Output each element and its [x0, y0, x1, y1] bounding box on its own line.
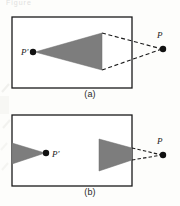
panel-a-source-point-dot	[160, 46, 166, 52]
panel-b-image-point-label: P'	[51, 149, 60, 159]
panel-a: P' P	[12, 17, 166, 88]
panel-a-image-point-dot	[30, 49, 36, 55]
figure-container: Figure P' P	[0, 0, 180, 206]
panel-b: P' P	[12, 115, 166, 186]
panel-a-source-point-label: P	[156, 30, 163, 40]
panel-b-dashed-lower	[132, 155, 162, 160]
figure-svg: P' P P' P	[0, 0, 180, 206]
panel-a-image-point-label: P'	[20, 47, 29, 57]
panel-b-dashed-upper	[132, 148, 162, 155]
panel-b-source-point-label: P	[156, 136, 163, 146]
panel-b-caption: (b)	[0, 187, 180, 197]
panel-b-source-point-dot	[160, 152, 166, 158]
panel-b-image-point-dot	[43, 150, 49, 156]
panel-a-caption: (a)	[0, 89, 180, 99]
